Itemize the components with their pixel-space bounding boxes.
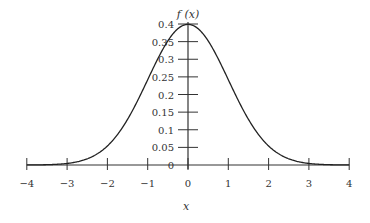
y-tick-label: 0.3 (158, 54, 174, 65)
x-tick-label: −3 (60, 178, 75, 189)
x-axis-title: x (183, 200, 190, 213)
y-tick-label: 0.1 (158, 125, 174, 136)
y-tick-label: 0.4 (158, 19, 174, 30)
x-tick-label: −2 (100, 178, 115, 189)
y-tick-label: 0.15 (152, 107, 174, 118)
x-tick-label: 2 (265, 178, 271, 189)
x-tick-label: 4 (346, 178, 352, 189)
y-tick-label: 0.05 (152, 142, 174, 153)
x-tick-label: −4 (19, 178, 34, 189)
x-tick-label: −1 (140, 178, 155, 189)
y-tick-label: 0 (168, 160, 174, 171)
y-axis-title: f (x) (176, 8, 199, 21)
y-axis: 00.050.10.150.20.250.30.350.4 (152, 19, 198, 171)
x-tick-label: 3 (306, 178, 312, 189)
y-tick-label: 0.35 (152, 37, 174, 48)
chart: −4−3−2−101234 00.050.10.150.20.250.30.35… (0, 0, 370, 223)
x-tick-label: 1 (225, 178, 231, 189)
y-tick-label: 0.25 (152, 72, 174, 83)
y-tick-label: 0.2 (158, 90, 174, 101)
x-tick-label: 0 (185, 178, 191, 189)
